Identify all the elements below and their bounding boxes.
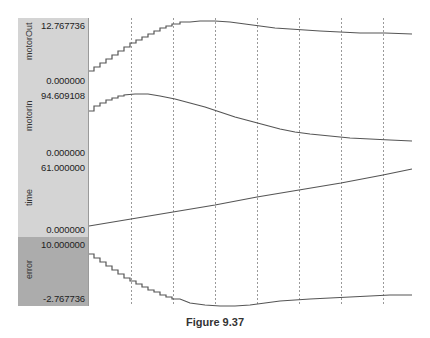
vertical-gridlines xyxy=(132,18,384,306)
trace-motorOut xyxy=(89,21,412,71)
trace-motorIn xyxy=(89,94,412,141)
trace-error xyxy=(89,254,412,306)
waveform-plot xyxy=(0,0,430,338)
figure-caption: Figure 9.37 xyxy=(0,316,430,328)
trace-time xyxy=(89,169,412,226)
